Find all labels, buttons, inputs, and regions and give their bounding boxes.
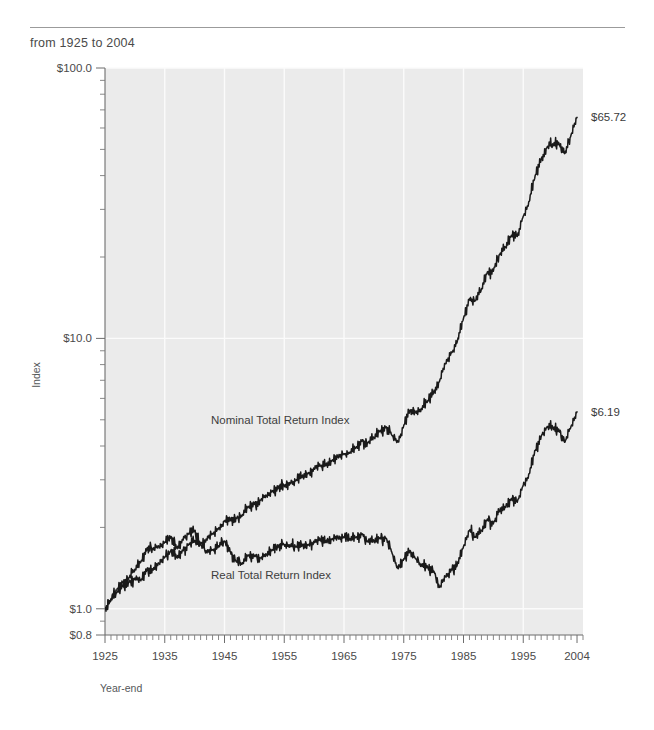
x-tick-label: 1985 — [451, 650, 477, 662]
x-tick-label: 1925 — [92, 650, 118, 662]
x-tick-label: 1965 — [331, 650, 357, 662]
x-tick-label: 1955 — [271, 650, 297, 662]
x-axis-tick-labels: 192519351945195519651975198519952004 — [92, 650, 590, 662]
y-tick-label: $1.0 — [70, 603, 92, 615]
x-axis-title: Year-end — [100, 682, 142, 694]
y-tick-label: $0.8 — [70, 629, 92, 641]
x-tick-label: 1945 — [212, 650, 238, 662]
series-label: Nominal Total Return Index — [211, 414, 350, 426]
real-end-value: $6.19 — [591, 406, 620, 418]
series-label: Real Total Return Index — [211, 569, 331, 581]
end-value-annotations: $65.72$6.19 — [591, 111, 626, 418]
total-return-index-chart: $100.0$10.0$1.0$0.8 19251935194519551965… — [0, 0, 654, 730]
x-tick-label: 1935 — [152, 650, 178, 662]
chart-container: $100.0$10.0$1.0$0.8 19251935194519551965… — [0, 0, 654, 730]
y-axis-tick-labels: $100.0$10.0$1.0$0.8 — [57, 62, 92, 641]
chart-page: from 1925 to 2004 $100.0$10.0$1.0$0.8 19… — [0, 0, 654, 730]
nominal-end-value: $65.72 — [591, 111, 626, 123]
y-tick-label: $10.0 — [63, 332, 92, 344]
y-tick-label: $100.0 — [57, 62, 92, 74]
x-tick-label: 1995 — [510, 650, 536, 662]
x-tick-label: 1975 — [391, 650, 417, 662]
y-axis-title: Index — [30, 361, 42, 387]
x-tick-label: 2004 — [564, 650, 590, 662]
